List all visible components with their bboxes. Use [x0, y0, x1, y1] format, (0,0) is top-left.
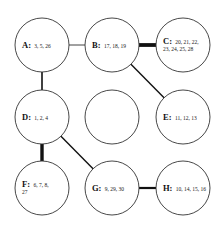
node-key: C:: [163, 36, 172, 46]
edge-b-e: [131, 64, 164, 98]
nodes-layer: A: 3, 5, 26B: 17, 18, 19C: 20, 21, 22,23…: [15, 18, 210, 215]
node-key: F:: [22, 179, 30, 189]
node-values: 10, 14, 15, 16: [174, 186, 206, 192]
node-c: C: 20, 21, 22,23, 24, 25, 28: [156, 18, 210, 72]
node-values: 6, 7, 8,: [32, 182, 49, 188]
node-b: B: 17, 18, 19: [85, 18, 139, 72]
node-key: B:: [92, 40, 101, 50]
node-e: E: 11, 12, 13: [156, 90, 210, 144]
node-values-line2: 23, 24, 25, 28: [163, 46, 194, 52]
node-g: G: 9, 29, 30: [85, 161, 139, 215]
node-key: A:: [22, 40, 31, 50]
edge-d-g: [61, 136, 93, 169]
node-values: 9, 29, 30: [103, 186, 124, 192]
node-key: D:: [22, 112, 31, 122]
node-f: F: 6, 7, 8,27: [15, 161, 69, 215]
node-key: E:: [163, 112, 172, 122]
node-h: H: 10, 14, 15, 16: [156, 161, 210, 215]
node-values: 3, 5, 26: [33, 43, 51, 49]
node-key: H:: [163, 183, 173, 193]
node-key: G:: [92, 183, 102, 193]
node-values: 1, 2, 4: [33, 115, 48, 121]
node-values: 11, 12, 13: [174, 115, 197, 121]
node-d: D: 1, 2, 4: [15, 90, 69, 144]
node-empty: [85, 90, 139, 144]
node-circle: [85, 90, 139, 144]
node-values-line2: 27: [22, 189, 28, 195]
node-values: 20, 21, 22,: [174, 39, 199, 45]
node-values: 17, 18, 19: [103, 43, 127, 49]
node-a: A: 3, 5, 26: [15, 18, 69, 72]
graph-diagram: A: 3, 5, 26B: 17, 18, 19C: 20, 21, 22,23…: [0, 0, 221, 231]
